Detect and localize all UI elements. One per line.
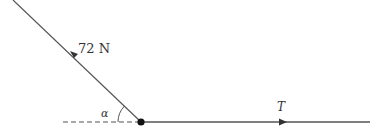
- label-alpha: α: [101, 107, 109, 120]
- point-dot: [137, 118, 144, 125]
- label-t: T: [277, 100, 286, 114]
- arrowhead-72n-icon: [70, 51, 78, 58]
- label-72n: 72 N: [78, 41, 110, 56]
- force-line-72n: [13, 0, 141, 122]
- arrowhead-t-icon: [279, 119, 287, 126]
- angle-arc: [118, 106, 125, 122]
- force-diagram: 72 N T α: [0, 0, 384, 131]
